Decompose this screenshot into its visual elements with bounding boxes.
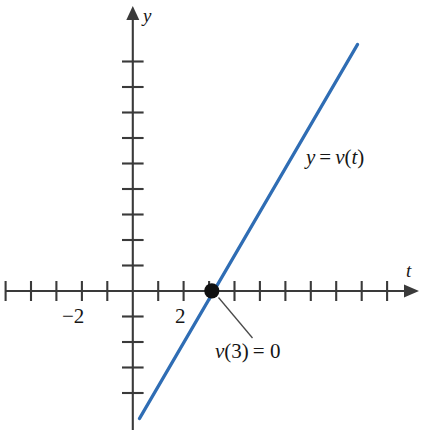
curve-equation-open-paren: ( [345, 145, 352, 169]
y-axis [126, 6, 139, 430]
graph-canvas [0, 0, 435, 441]
x-axis-label: t [406, 261, 411, 280]
root-point-marker [204, 283, 219, 298]
y-axis-arrowhead [126, 6, 139, 20]
curve-equation-close-paren: ) [357, 145, 364, 169]
x-tick-label-positive-two: 2 [175, 306, 186, 327]
annotation-argument: (3) [224, 339, 249, 363]
curve-equation-v: v [335, 145, 344, 169]
annotation-equals-zero: = 0 [253, 339, 281, 363]
root-annotation-label: v(3)= 0 [215, 341, 280, 362]
curve-equation-y: y [306, 145, 315, 169]
x-tick-label-negative-two: −2 [62, 306, 84, 327]
velocity-graph-figure: y t −2 2 y=v(t) v(3)= 0 [0, 0, 435, 441]
curve-equation-equals: = [319, 145, 331, 169]
curve-equation-label: y=v(t) [306, 147, 364, 168]
x-axis-arrowhead [404, 285, 419, 298]
annotation-leader-line [219, 298, 253, 339]
y-axis-label: y [143, 6, 151, 25]
annotation-function-name: v [215, 339, 224, 363]
